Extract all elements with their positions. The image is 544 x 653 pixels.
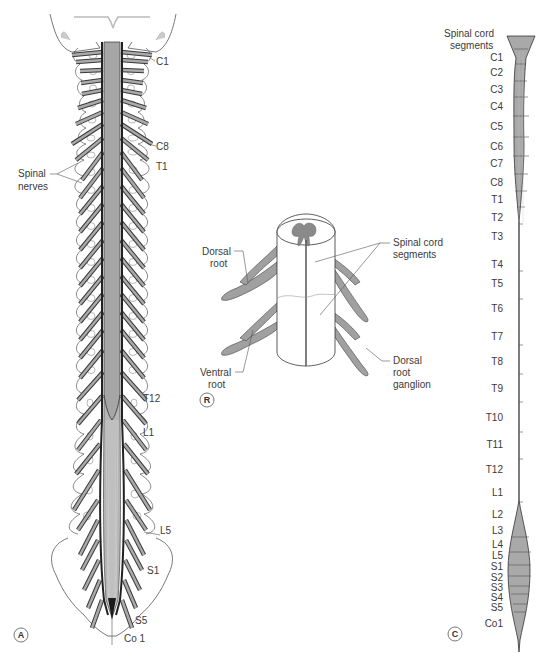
segment-t4: T4 [491,259,503,270]
segment-c3: C3 [490,84,503,95]
label-drg-2: root [393,367,410,378]
segment-t1: T1 [491,194,503,205]
label-ventral-root-2: root [208,379,225,390]
label-l5: L5 [160,525,172,536]
label-drg-1: Dorsal [393,355,422,366]
segment-t12: T12 [486,464,504,475]
segment-t2: T2 [491,212,503,223]
segment-co1: Co1 [485,618,504,629]
label-l1: L1 [143,427,155,438]
segment-l3: L3 [492,525,504,536]
label-spinal-cord-segments-2: segments [393,249,436,260]
label-c1: C1 [156,56,169,67]
spinal-cord-figure: C1 C8 T1 T12 L1 L5 S1 S5 Co 1 Spinal ner… [0,0,544,653]
segment-t7: T7 [491,331,503,342]
segment-t6: T6 [491,303,503,314]
segment-l4: L4 [492,539,504,550]
label-t12: T12 [143,393,161,404]
segment-s5: S5 [491,602,504,613]
label-t1: T1 [156,161,168,172]
segment-l5: L5 [492,550,504,561]
segment-s1: S1 [491,561,504,572]
label-spinal-nerves-1: Spinal [18,168,46,179]
segment-labels: C1 C2 C3 C4 C5 C6 C7 C8 T1 T2 T3 T4 T5 T… [485,52,504,629]
segment-t9: T9 [491,383,503,394]
label-dorsal-root-2: root [210,258,227,269]
label-c8: C8 [156,141,169,152]
label-ventral-root-1: Ventral [200,367,231,378]
panel-c-title-2: segments [450,40,493,51]
panel-c-title-1: Spinal cord [444,28,494,39]
segment-t5: T5 [491,278,503,289]
label-s5: S5 [135,615,148,626]
segment-l2: L2 [492,509,504,520]
segment-t3: T3 [491,231,503,242]
panel-letter-c: C [452,629,459,639]
panel-a-vertebral-column [50,14,176,645]
label-dorsal-root-1: Dorsal [202,246,231,257]
panel-c-segment-column: Spinal cord segments [444,28,535,652]
segment-c5: C5 [490,121,503,132]
label-co1: Co 1 [124,633,146,644]
segment-c8: C8 [490,177,503,188]
cord-outline [507,36,535,652]
segment-t11: T11 [487,439,504,450]
panel-letter-a: A [18,630,25,640]
label-drg-3: ganglion [393,379,431,390]
spinal-cord [104,42,120,420]
segment-c4: C4 [490,101,503,112]
label-s1: S1 [147,565,160,576]
segment-t8: T8 [491,356,503,367]
label-spinal-nerves-2: nerves [18,181,48,192]
segment-c1: C1 [490,52,503,63]
label-spinal-cord-segments-1: Spinal cord [393,237,443,248]
panel-letter-b: R [204,395,211,405]
segment-c2: C2 [490,67,503,78]
segment-c6: C6 [490,141,503,152]
panel-b-cord-segments-3d [222,214,368,376]
segment-t10: T10 [486,412,504,423]
segment-c7: C7 [490,158,503,169]
segment-l1: L1 [492,487,504,498]
